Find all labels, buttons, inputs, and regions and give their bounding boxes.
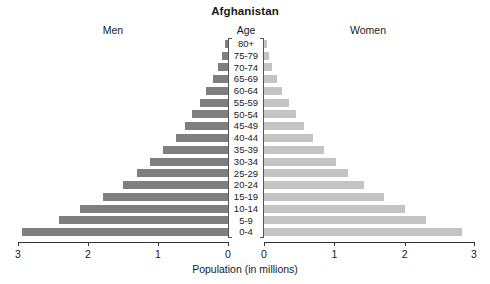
bar-row-women — [264, 167, 475, 179]
x-tick-label-men: 1 — [148, 248, 168, 260]
bar-row-men — [18, 62, 228, 74]
x-tick-label-men: 2 — [78, 248, 98, 260]
age-group-label: 60-64 — [228, 86, 264, 96]
bar-men-0-4 — [22, 228, 229, 236]
x-tick-men — [88, 242, 89, 246]
bar-row-men — [18, 179, 228, 191]
bar-row-women — [264, 38, 475, 50]
age-group-row: 15-19 — [228, 191, 264, 203]
bar-women-75-79 — [264, 52, 269, 60]
x-tick-men — [18, 242, 19, 246]
age-group-row: 80+ — [228, 38, 264, 50]
age-group-label: 30-34 — [228, 157, 264, 167]
bar-men-65-69 — [213, 75, 228, 83]
x-tick-label-men: 3 — [8, 248, 28, 260]
age-group-row: 55-59 — [228, 97, 264, 109]
age-group-row: 20-24 — [228, 179, 264, 191]
bracket-cap-left-top — [228, 38, 232, 39]
plot-area: 80+75-7970-7465-6960-6455-5950-5445-4940… — [0, 38, 490, 238]
bar-row-women — [264, 203, 475, 215]
population-pyramid-chart: Afghanistan Men Age Women 80+75-7970-746… — [0, 0, 490, 284]
bar-row-women — [264, 62, 475, 74]
age-group-label: 40-44 — [228, 133, 264, 143]
age-group-row: 40-44 — [228, 132, 264, 144]
x-tick-label-women: 2 — [395, 248, 415, 260]
bar-row-men — [18, 73, 228, 85]
bar-men-45-49 — [185, 122, 228, 130]
x-axis-title: Population (in millions) — [0, 263, 490, 275]
axis-line-women — [264, 242, 475, 243]
bar-row-women — [264, 179, 475, 191]
bar-women-10-14 — [264, 205, 405, 213]
age-group-label: 5-9 — [228, 216, 264, 226]
bar-row-women — [264, 144, 475, 156]
age-group-label: 15-19 — [228, 192, 264, 202]
bar-women-0-4 — [264, 228, 462, 236]
age-column-bracket-left — [228, 38, 229, 238]
bar-women-40-44 — [264, 134, 313, 142]
bar-men-55-59 — [200, 99, 228, 107]
bar-row-men — [18, 203, 228, 215]
x-tick-label-women: 3 — [464, 248, 484, 260]
column-header-women: Women — [333, 24, 403, 36]
bar-men-5-9 — [59, 216, 228, 224]
bar-row-men — [18, 226, 228, 238]
bar-men-25-29 — [137, 169, 228, 177]
axis-line-men — [18, 242, 228, 243]
bar-row-men — [18, 167, 228, 179]
x-tick-women — [334, 242, 335, 246]
x-tick-men — [158, 242, 159, 246]
men-bars-panel — [18, 38, 228, 238]
age-group-row: 10-14 — [228, 203, 264, 215]
bracket-cap-left-bottom — [228, 237, 232, 238]
bar-row-women — [264, 50, 475, 62]
bar-women-60-64 — [264, 87, 282, 95]
bar-men-30-34 — [150, 158, 228, 166]
bar-row-men — [18, 144, 228, 156]
bracket-cap-right-top — [260, 38, 264, 39]
bracket-cap-right-bottom — [260, 237, 264, 238]
x-tick-label-men: 0 — [218, 248, 238, 260]
bar-men-70-74 — [218, 63, 229, 71]
x-tick-women — [474, 242, 475, 246]
x-tick-women — [264, 242, 265, 246]
age-group-row: 45-49 — [228, 120, 264, 132]
age-group-label: 25-29 — [228, 169, 264, 179]
bar-row-women — [264, 226, 475, 238]
bar-row-men — [18, 214, 228, 226]
bar-row-women — [264, 120, 475, 132]
bar-women-35-39 — [264, 146, 324, 154]
bar-men-20-24 — [123, 181, 228, 189]
age-group-label: 75-79 — [228, 51, 264, 61]
bar-women-50-54 — [264, 110, 296, 118]
bar-row-men — [18, 85, 228, 97]
x-axis-women: 0123 — [264, 242, 475, 264]
bar-row-women — [264, 73, 475, 85]
x-tick-women — [405, 242, 406, 246]
bar-women-30-34 — [264, 158, 336, 166]
bar-row-women — [264, 85, 475, 97]
age-group-label: 50-54 — [228, 110, 264, 120]
chart-title: Afghanistan — [0, 5, 490, 17]
x-tick-men — [228, 242, 229, 246]
age-group-label: 20-24 — [228, 180, 264, 190]
age-label-column: 80+75-7970-7465-6960-6455-5950-5445-4940… — [228, 38, 264, 238]
bar-men-40-44 — [176, 134, 229, 142]
age-group-label: 65-69 — [228, 74, 264, 84]
bar-row-men — [18, 109, 228, 121]
women-bars-panel — [264, 38, 475, 238]
bar-women-45-49 — [264, 122, 304, 130]
age-group-label: 70-74 — [228, 63, 264, 73]
bar-row-men — [18, 132, 228, 144]
age-group-row: 65-69 — [228, 73, 264, 85]
bar-row-men — [18, 38, 228, 50]
bar-women-80plus — [264, 40, 267, 48]
bar-men-15-19 — [103, 193, 228, 201]
bar-women-20-24 — [264, 181, 364, 189]
age-column-bracket-right — [263, 38, 264, 238]
age-group-label: 0-4 — [228, 227, 264, 237]
age-group-row: 75-79 — [228, 50, 264, 62]
bar-men-10-14 — [80, 205, 228, 213]
age-group-label: 80+ — [228, 39, 264, 49]
bar-women-25-29 — [264, 169, 348, 177]
